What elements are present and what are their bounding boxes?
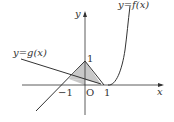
graph: y=f(x) y=g(x) y x O −1 1 1 [0,0,174,122]
curve-f [108,6,130,85]
y-axis-label: y [74,8,81,19]
g-label: y=g(x) [12,47,47,58]
tick-x-neg-one: −1 [58,87,73,98]
x-axis-label: x [157,86,163,97]
shaded-region-lower [69,79,85,85]
curve-abs [36,61,104,111]
f-label: y=f(x) [117,0,149,10]
tick-x-one: 1 [104,87,110,98]
origin-label: O [86,87,94,98]
tick-y-one: 1 [87,53,93,64]
y-axis-arrow-icon [83,11,87,17]
